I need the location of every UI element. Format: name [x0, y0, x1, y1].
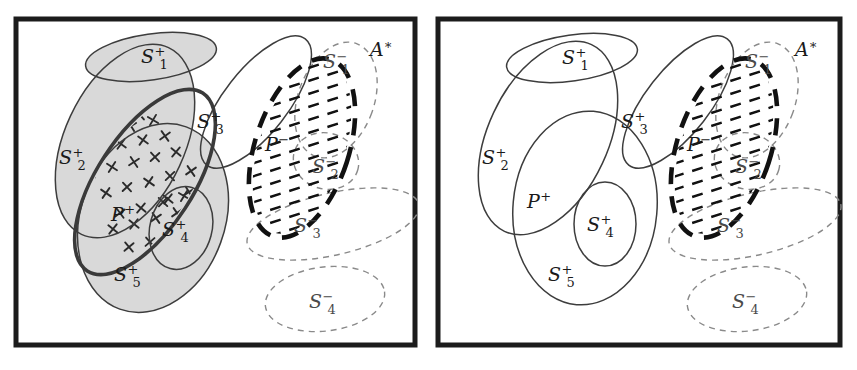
universe-label-base: A: [793, 38, 809, 60]
panel-border: [438, 19, 840, 345]
universe-label-star: ∗: [384, 37, 393, 52]
label-subscript: 4: [605, 225, 613, 240]
label-base: P: [110, 203, 125, 225]
label-base: P: [686, 133, 701, 155]
label-subscript: 1: [159, 57, 167, 72]
label-base: S: [323, 50, 336, 72]
label-base: S: [197, 110, 210, 132]
label-subscript: 5: [132, 275, 140, 290]
label-subscript: 2: [330, 167, 338, 182]
label-subscript: 4: [750, 302, 758, 317]
label-superscript: +: [540, 189, 551, 204]
label-base: P: [526, 190, 541, 212]
label-superscript: +: [124, 202, 135, 217]
label-base: S: [482, 146, 495, 168]
label-base: S: [745, 50, 758, 72]
label-base: S: [312, 155, 325, 177]
label-base: S: [141, 45, 154, 67]
panel-right: S+1S+2S+3S+4S+5P+S−1S−2S−3S−4P−A∗: [435, 16, 843, 348]
label-base: S: [114, 263, 127, 285]
label-base: S: [735, 155, 748, 177]
label-base: S: [717, 214, 730, 236]
label-subscript: 2: [753, 167, 761, 182]
label-base: S: [621, 110, 634, 132]
label-subscript: 3: [312, 226, 320, 241]
label-subscript: 1: [763, 62, 771, 77]
universe-label-base: A: [368, 38, 384, 60]
label-subscript: 5: [566, 275, 574, 290]
label-subscript: 3: [639, 122, 647, 137]
label-base: S: [587, 213, 600, 235]
label-base: P: [264, 133, 279, 155]
label-base: S: [294, 214, 307, 236]
label-superscript: −: [278, 132, 289, 147]
label-subscript: 2: [77, 158, 85, 173]
label-base: S: [59, 146, 72, 168]
label-subscript: 4: [180, 230, 188, 245]
label-subscript: 2: [500, 158, 508, 173]
label-base: S: [732, 290, 745, 312]
panel-right-canvas: S+1S+2S+3S+4S+5P+S−1S−2S−3S−4P−A∗: [435, 16, 843, 348]
label-base: S: [162, 218, 175, 240]
label-base: S: [548, 263, 561, 285]
label-subscript: 1: [341, 62, 349, 77]
label-base: S: [309, 290, 322, 312]
label-subscript: 3: [215, 122, 223, 137]
two-panel-set-diagram: S+1S+2S+3S+4S+5P+S−1S−2S−3S−4P−A∗ S+1S+2…: [0, 0, 857, 370]
label-subscript: 4: [327, 302, 335, 317]
label-base: S: [562, 46, 575, 68]
panel-left: S+1S+2S+3S+4S+5P+S−1S−2S−3S−4P−A∗: [13, 16, 418, 348]
label-subscript: 3: [735, 226, 743, 241]
panel-left-canvas: S+1S+2S+3S+4S+5P+S−1S−2S−3S−4P−A∗: [13, 16, 418, 348]
universe-label-star: ∗: [809, 37, 818, 52]
label-superscript: −: [700, 132, 711, 147]
label-subscript: 1: [580, 58, 588, 73]
